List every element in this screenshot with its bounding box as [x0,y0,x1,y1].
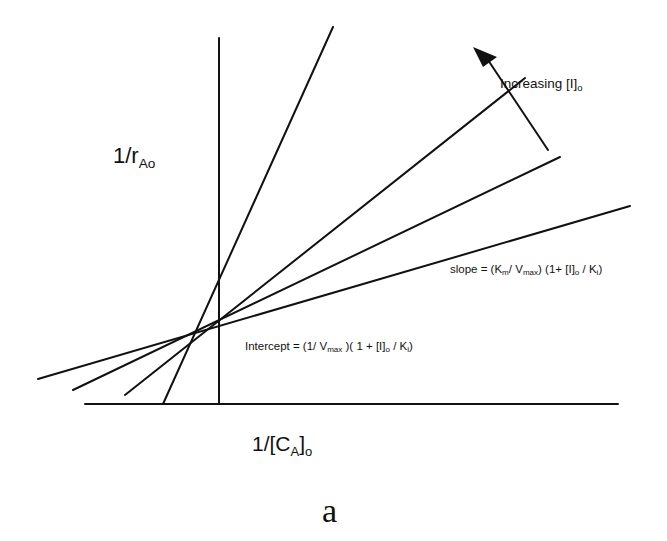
intercept-equation: Intercept = (1/ Vmax )( 1 + [I]o / Ki) [245,340,413,354]
panel-label: a [322,492,337,530]
increasing-inhibitor-label: Increasing [I]o [500,76,583,93]
x-axis-label: 1/[CA]o [252,432,312,459]
arrowhead-icon [473,47,497,67]
slope-equation: slope = (Km/ Vmax) (1+ [I]o / Ki) [450,263,602,277]
y-axis-label: 1/rAo [113,143,155,171]
increasing-arrow-shaft [488,60,548,150]
